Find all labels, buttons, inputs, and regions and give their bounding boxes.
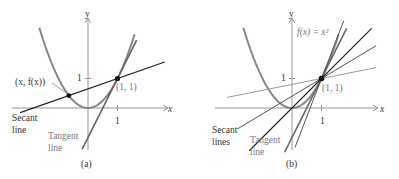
panel-b-secant-label-1: Secant — [212, 125, 238, 135]
panel-b-tangent-label-1: Tangent — [250, 135, 281, 145]
panel-b-y-tick-label: 1 — [281, 73, 286, 83]
panel-a-secant-label-2: line — [12, 125, 26, 135]
panel-a-y-tick-label: 1 — [77, 73, 82, 83]
moving-point — [66, 93, 71, 98]
panel-a-moving-point-label: (x, f(x)) — [15, 77, 45, 88]
parabola-curve — [243, 28, 338, 108]
panel-a-x-tick-label: 1 — [115, 116, 120, 126]
panel-b-tangent-label-2: line — [250, 147, 264, 157]
secant-line — [227, 68, 376, 98]
panel-b-secant-label-2: lines — [212, 137, 230, 147]
panel-a-tangent-label-1: Tangent — [48, 131, 79, 141]
point-1-1 — [319, 76, 325, 82]
panel-a-caption: (a) — [81, 159, 92, 170]
parabola-curve — [39, 28, 134, 108]
point-1-1 — [115, 76, 120, 81]
panel-b-function-label: f(x) = x² — [297, 27, 329, 38]
panel-b-point-label: (1, 1) — [322, 83, 343, 94]
secant-line — [20, 62, 165, 113]
panel-b — [215, 18, 378, 152]
panel-b-caption: (b) — [286, 159, 297, 170]
panel-a-x-axis-label: x — [167, 104, 173, 114]
panel-b-x-axis-label: x — [379, 104, 385, 114]
panel-a-y-axis-label: y — [85, 9, 90, 19]
panel-a-point-label: (1, 1) — [116, 82, 137, 93]
panel-a-tangent-label-2: line — [48, 143, 62, 153]
panel-a-secant-label-1: Secant — [12, 113, 38, 123]
figure: y x 1 1 (1, 1) (x, f(x)) Secant line Tan… — [0, 0, 399, 179]
panel-b-y-axis-label: y — [289, 9, 294, 19]
panel-b-x-tick-label: 1 — [320, 116, 325, 126]
tangent-line — [82, 40, 137, 149]
